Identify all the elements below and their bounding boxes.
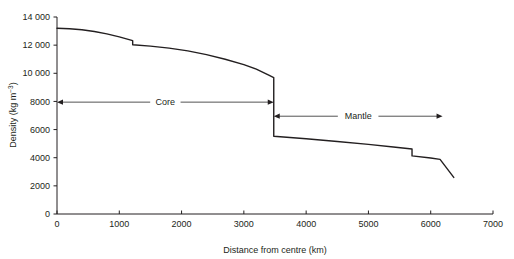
y-tick-label: 4000 [30, 153, 50, 163]
y-axis-title-base: Density (kg m [8, 93, 18, 148]
mantle-span-arrow-label: Mantle [345, 111, 372, 121]
x-axis-title: Distance from centre (km) [223, 245, 327, 255]
y-axis-ticks: 0200040006000800010 00012 00014 000 [22, 12, 57, 219]
x-tick-label: 5000 [358, 219, 378, 229]
x-tick-label: 2000 [172, 219, 192, 229]
density-curve [57, 28, 454, 177]
y-tick-label: 6000 [30, 125, 50, 135]
y-axis-title: Density (kg m−3) [7, 82, 18, 147]
y-tick-label: 10 000 [22, 68, 50, 78]
x-tick-label: 3000 [234, 219, 254, 229]
x-tick-label: 0 [54, 219, 59, 229]
y-tick-label: 0 [45, 209, 50, 219]
axes [57, 17, 493, 214]
y-axis-title-close: ) [8, 82, 18, 85]
x-tick-label: 6000 [421, 219, 441, 229]
x-tick-label: 1000 [109, 219, 129, 229]
density-profile-figure: 0200040006000800010 00012 00014 000 0100… [0, 0, 514, 259]
x-tick-label: 7000 [483, 219, 503, 229]
mantle-span-arrow-head-left [274, 114, 280, 119]
x-axis-ticks: 01000200030004000500060007000 [54, 211, 503, 230]
core-span-arrow-label: Core [156, 97, 176, 107]
y-tick-label: 12 000 [22, 40, 50, 50]
core-span-arrow: Core [57, 97, 274, 107]
core-span-arrow-head-right [268, 100, 274, 105]
y-tick-label: 14 000 [22, 12, 50, 22]
data-series-group [57, 28, 454, 177]
mantle-span-arrow: Mantle [274, 111, 443, 121]
core-span-arrow-head-left [57, 100, 63, 105]
svg-text:Density (kg m−3): Density (kg m−3) [7, 82, 18, 147]
region-annotations: CoreMantle [57, 97, 443, 121]
mantle-span-arrow-head-right [437, 114, 443, 119]
chart-canvas: 0200040006000800010 00012 00014 000 0100… [0, 0, 514, 259]
x-tick-label: 4000 [296, 219, 316, 229]
y-tick-label: 2000 [30, 181, 50, 191]
y-tick-label: 8000 [30, 97, 50, 107]
